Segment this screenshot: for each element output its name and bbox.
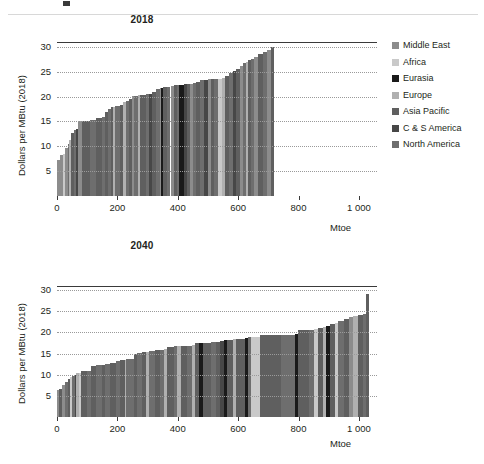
x-axis-tick-mark [299, 417, 300, 421]
gridline [57, 97, 377, 98]
x-axis-tick-mark [57, 417, 58, 421]
x-axis-tick-label: 1 000 [347, 203, 371, 213]
legend-item[interactable]: Europe [392, 90, 462, 101]
x-axis-tick-mark [117, 417, 118, 421]
x-axis-tick-label: 600 [230, 203, 246, 213]
bar-segment [236, 339, 245, 417]
x-axis-tick-label: 800 [291, 424, 307, 434]
x-axis-tick-label: 1 000 [347, 424, 371, 434]
y-axis-tick-label: 30 [40, 285, 51, 295]
y-axis-tick-label: 25 [40, 307, 51, 317]
legend-item[interactable]: C & S America [392, 123, 462, 134]
y-axis-tick-label: 10 [40, 142, 51, 152]
bar-segment [281, 335, 295, 417]
chart-title-2040: 2040 [0, 240, 384, 251]
legend-item-label: Eurasia [403, 74, 434, 83]
legend-swatch-icon [392, 125, 399, 132]
bar-segment [82, 121, 90, 197]
legend-item[interactable]: Asia Pacific [392, 106, 462, 117]
legend-item[interactable]: Eurasia [392, 73, 462, 84]
gridline [57, 290, 377, 291]
gridline [57, 146, 377, 147]
gridline [57, 375, 377, 376]
legend-swatch-icon [392, 92, 399, 99]
y-axis-title-2018: Dollars per MBtu (2018) [16, 75, 27, 176]
x-axis-tick-mark [238, 196, 239, 200]
plot-area-2040: 5101520253002004006008001 000 [57, 286, 377, 417]
y-axis-tick-label: 15 [40, 117, 51, 127]
y-axis-tick-label: 10 [40, 370, 51, 380]
x-axis-tick-mark [117, 196, 118, 200]
chart-title-2018: 2018 [0, 14, 384, 25]
bar-segment [126, 359, 133, 417]
bar-segment [298, 330, 309, 417]
y-axis-tick-label: 20 [40, 92, 51, 102]
gridline [57, 311, 377, 312]
legend-item[interactable]: Africa [392, 57, 462, 68]
bar-segment [251, 337, 260, 417]
legend-item-label: C & S America [403, 124, 462, 133]
chart-2040: 2040 Dollars per MBtu (2018) 51015202530… [0, 232, 484, 464]
x-axis-tick-label: 0 [54, 203, 59, 213]
x-axis-tick-mark [238, 417, 239, 421]
legend: Middle EastAfricaEurasiaEuropeAsia Pacif… [392, 40, 462, 156]
x-axis-tick-mark [359, 417, 360, 421]
legend-item-label: Asia Pacific [403, 107, 450, 116]
x-axis-tick-label: 200 [109, 424, 125, 434]
gridline [57, 47, 377, 48]
y-axis-tick-label: 5 [46, 166, 51, 176]
x-axis-tick-label: 400 [170, 203, 186, 213]
gridline [57, 171, 377, 172]
y-axis-tick-label: 20 [40, 328, 51, 338]
y-axis-tick-label: 30 [40, 42, 51, 52]
legend-item-label: North America [403, 140, 460, 149]
legend-swatch-icon [392, 75, 399, 82]
legend-swatch-icon [392, 59, 399, 66]
bar-series-2018 [57, 42, 377, 196]
x-axis-tick-mark [359, 196, 360, 200]
gridline [57, 354, 377, 355]
legend-item-label: Middle East [403, 41, 450, 50]
bar-segment [90, 120, 97, 197]
gridline [57, 396, 377, 397]
x-axis-tick-label: 600 [230, 424, 246, 434]
x-axis-tick-mark [178, 417, 179, 421]
legend-item[interactable]: North America [392, 139, 462, 150]
bar-segment [366, 294, 368, 417]
y-axis-tick-label: 15 [40, 349, 51, 359]
gridline [57, 72, 377, 73]
bar-series-2040 [57, 286, 377, 417]
plot-area-2018: 5101520253002004006008001 000 [57, 42, 377, 196]
gridline [57, 121, 377, 122]
x-axis-tick-label: 800 [291, 203, 307, 213]
x-axis-tick-label: 400 [170, 424, 186, 434]
x-axis-tick-label: 200 [109, 203, 125, 213]
y-axis-tick-label: 5 [46, 391, 51, 401]
x-axis-tick-mark [299, 196, 300, 200]
legend-item-label: Europe [403, 91, 432, 100]
legend-swatch-icon [392, 42, 399, 49]
legend-item[interactable]: Middle East [392, 40, 462, 51]
legend-swatch-icon [392, 108, 399, 115]
x-axis-tick-mark [178, 196, 179, 200]
y-axis-tick-label: 25 [40, 67, 51, 77]
legend-swatch-icon [392, 141, 399, 148]
bar-segment [260, 335, 281, 417]
gridline [57, 332, 377, 333]
x-axis-tick-label: 0 [54, 424, 59, 434]
legend-item-label: Africa [403, 58, 426, 67]
x-axis-title-2040: Mtoe [330, 438, 351, 449]
figure-page: 2018 Dollars per MBtu (2018) 51015202530… [0, 0, 484, 464]
bar-segment [167, 347, 174, 417]
y-axis-title-2040: Dollars per MBtu (2018) [16, 303, 27, 404]
x-axis-tick-mark [57, 196, 58, 200]
